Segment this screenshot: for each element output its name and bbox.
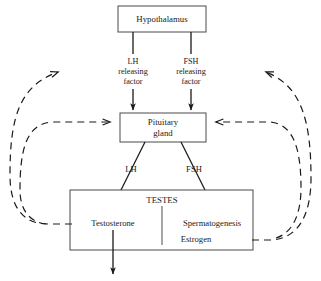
testosterone-to-lh-rf-feedback	[10, 72, 72, 224]
testosterone-label: Testosterone	[91, 218, 134, 228]
pituitary-gland-line2: gland	[153, 128, 173, 138]
pituitary-gland-node: Pituitary gland	[120, 113, 206, 142]
hypothalamus-label: Hypothalamus	[136, 14, 188, 24]
fsh-label: FSH	[186, 164, 202, 174]
fsh-releasing-factor-node: FSH releasing factor	[176, 57, 206, 86]
spermatogenesis-label: Spermatogenesis	[183, 218, 242, 228]
estrogen-label: Estrogen	[181, 234, 212, 244]
hypothalamus-node: Hypothalamus	[118, 6, 206, 32]
fsh-releasing-factor-line3: factor	[181, 77, 200, 86]
lh-releasing-factor-line2: releasing	[118, 67, 148, 76]
pituitary-gland-line1: Pituitary	[148, 117, 179, 127]
testes-label: TESTES	[146, 195, 177, 205]
testes-node: TESTES Testosterone Spermatogenesis Estr…	[70, 190, 253, 250]
fsh-releasing-factor-line1: FSH	[183, 57, 198, 66]
lh-releasing-factor-node: LH releasing factor	[118, 57, 148, 86]
fsh-releasing-factor-line2: releasing	[176, 67, 206, 76]
endocrine-feedback-diagram: Hypothalamus LH releasing factor FSH rel…	[0, 0, 321, 281]
lh-label: LH	[125, 164, 136, 174]
diagram-canvas: Hypothalamus LH releasing factor FSH rel…	[0, 0, 321, 281]
lh-releasing-factor-line1: LH	[128, 57, 139, 66]
lh-releasing-factor-line3: factor	[123, 77, 142, 86]
estrogen-to-fsh-rf-feedback	[252, 72, 311, 240]
